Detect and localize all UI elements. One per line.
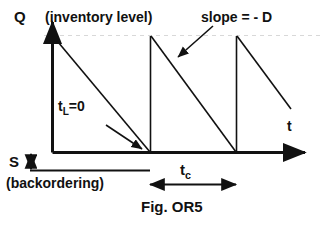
y-axis-label: Q: [14, 9, 26, 24]
slope-annotation-arrow: [178, 26, 213, 57]
slope-annotation-label: slope = - D: [201, 10, 272, 24]
cycle-subscript: c: [185, 169, 191, 181]
lead-time-value: =0: [69, 98, 85, 114]
inventory-sawtooth-figure: Q (inventory level) slope = - D tL=0 t S…: [0, 0, 324, 227]
backorder-symbol-label: S: [9, 154, 19, 169]
lead-time-label: tL=0: [58, 99, 85, 117]
figure-canvas: [0, 0, 324, 227]
x-axis-label: t: [287, 119, 292, 133]
y-axis-description-label: (inventory level): [45, 10, 152, 24]
backordering-description-label: (backordering): [6, 176, 104, 190]
sawtooth-descent-2: [151, 36, 236, 152]
sawtooth-descent-3: [237, 36, 291, 109]
sawtooth-descent-1: [53, 36, 150, 152]
figure-caption: Fig. OR5: [141, 199, 203, 214]
cycle-length-label: tc: [180, 162, 191, 181]
